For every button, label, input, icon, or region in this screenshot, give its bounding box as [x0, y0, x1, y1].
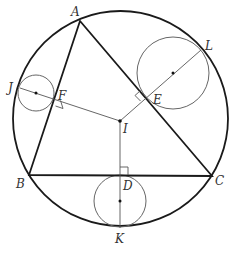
label-l: L [204, 39, 213, 53]
geometry-diagram: A B C D E F I J K L [0, 0, 233, 254]
center-dot-dk [119, 200, 122, 203]
label-e: E [152, 93, 162, 107]
triangle-abc [29, 21, 212, 176]
segment-il [120, 50, 201, 121]
circumcircle [13, 11, 228, 226]
label-b: B [15, 177, 25, 191]
label-j: J [5, 81, 14, 95]
label-a: A [70, 5, 80, 19]
label-k: K [114, 232, 125, 246]
center-dot-jf [35, 92, 38, 95]
right-angle-d [120, 167, 128, 175]
incenter-dot [118, 119, 122, 123]
label-c: C [215, 174, 224, 188]
label-i: I [122, 122, 128, 136]
label-f: F [57, 89, 67, 103]
label-d: D [122, 179, 133, 193]
center-dot-el [172, 72, 175, 75]
